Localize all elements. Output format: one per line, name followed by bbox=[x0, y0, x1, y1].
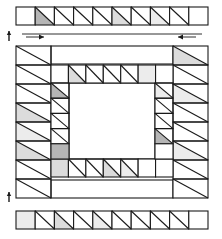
top-strip-unit-9-fill bbox=[189, 7, 208, 25]
inner-top-unit-1 bbox=[68, 65, 85, 83]
outer-right-unit-5 bbox=[173, 141, 208, 160]
outer-left-unit-2 bbox=[16, 84, 51, 103]
bottom-strip-unit-7 bbox=[150, 211, 169, 229]
inner-left-unit-4-fill bbox=[51, 144, 69, 159]
inner-bottom-unit-0-fill bbox=[51, 159, 68, 177]
inner-bottom-unit-5 bbox=[138, 159, 155, 177]
bottom-strip-unit-3 bbox=[74, 211, 93, 229]
inner-left-unit-0 bbox=[51, 83, 69, 98]
outer-left-unit-7 bbox=[16, 179, 51, 198]
outer-bottom-rail bbox=[51, 180, 173, 198]
outer-left-unit-4 bbox=[16, 122, 51, 141]
outer-top-rail bbox=[51, 46, 173, 64]
outer-right-unit-7 bbox=[173, 179, 208, 198]
top-strip-unit-0-fill bbox=[16, 7, 35, 25]
bottom-strip-unit-0 bbox=[16, 211, 35, 229]
quilt-diagram-svg bbox=[0, 0, 222, 239]
inner-top-unit-0 bbox=[51, 65, 68, 83]
inner-right-unit-3 bbox=[155, 129, 173, 144]
top-strip-unit-3 bbox=[74, 7, 93, 25]
inner-left-unit-1 bbox=[51, 98, 69, 113]
top-left-direction-arrow-head bbox=[39, 34, 44, 39]
bottom-strip-unit-5 bbox=[112, 211, 131, 229]
outer-left-unit-5 bbox=[16, 141, 51, 160]
inner-bottom-unit-4 bbox=[121, 159, 138, 177]
outer-left-unit-3 bbox=[16, 103, 51, 122]
top-strip-unit-2 bbox=[54, 7, 73, 25]
inner-top-unit-0-fill bbox=[51, 65, 68, 83]
inner-bottom-unit-3 bbox=[103, 159, 120, 177]
top-strip-unit-1 bbox=[35, 7, 54, 25]
top-strip-unit-0 bbox=[16, 7, 35, 25]
inner-top-unit-6 bbox=[156, 65, 173, 83]
inner-top-unit-6-fill bbox=[156, 65, 173, 83]
outer-right-unit-2 bbox=[173, 84, 208, 103]
inner-top-unit-5-fill bbox=[138, 65, 155, 83]
bottom-strip-unit-4 bbox=[93, 211, 112, 229]
left-tick-upper-head bbox=[7, 31, 11, 35]
bottom-strip-unit-0-fill bbox=[16, 211, 35, 229]
bottom-strip-unit-6 bbox=[131, 211, 150, 229]
bottom-strip-unit-9 bbox=[189, 211, 208, 229]
top-right-direction-arrow-head bbox=[178, 34, 183, 39]
top-strip-unit-6 bbox=[131, 7, 150, 25]
top-strip-unit-9 bbox=[189, 7, 208, 25]
bottom-strip-unit-2 bbox=[54, 211, 73, 229]
inner-bottom-unit-2 bbox=[86, 159, 103, 177]
outer-left-unit-1 bbox=[16, 65, 51, 84]
inner-top-unit-3 bbox=[103, 65, 120, 83]
center-open-square bbox=[69, 83, 155, 159]
outer-right-unit-6 bbox=[173, 160, 208, 179]
top-strip-unit-4 bbox=[93, 7, 112, 25]
inner-left-unit-4 bbox=[51, 144, 69, 159]
outer-right-unit-3 bbox=[173, 103, 208, 122]
outer-right-unit-4 bbox=[173, 122, 208, 141]
inner-top-unit-2 bbox=[86, 65, 103, 83]
inner-bottom-unit-0 bbox=[51, 159, 68, 177]
inner-right-unit-2 bbox=[155, 113, 173, 128]
inner-right-unit-4 bbox=[155, 144, 173, 159]
inner-bottom-unit-5-fill bbox=[138, 159, 155, 177]
bottom-strip-unit-1 bbox=[35, 211, 54, 229]
quilt-diagram-root bbox=[0, 0, 222, 239]
inner-bottom-unit-6 bbox=[156, 159, 173, 177]
outer-left-unit-6 bbox=[16, 160, 51, 179]
inner-right-unit-1 bbox=[155, 98, 173, 113]
bottom-strip-unit-9-fill bbox=[189, 211, 208, 229]
outer-right-unit-0 bbox=[173, 46, 208, 65]
top-strip-unit-7 bbox=[150, 7, 169, 25]
inner-right-unit-0 bbox=[155, 83, 173, 98]
top-strip-unit-8 bbox=[170, 7, 189, 25]
bottom-strip-unit-8 bbox=[170, 211, 189, 229]
left-tick-lower-head bbox=[7, 192, 11, 196]
inner-top-unit-5 bbox=[138, 65, 155, 83]
inner-bottom-unit-1 bbox=[68, 159, 85, 177]
outer-left-unit-0 bbox=[16, 46, 51, 65]
inner-right-unit-4-fill bbox=[155, 144, 173, 159]
inner-bottom-unit-6-fill bbox=[156, 159, 173, 177]
inner-left-unit-2 bbox=[51, 113, 69, 128]
inner-top-unit-4 bbox=[121, 65, 138, 83]
top-strip-unit-5 bbox=[112, 7, 131, 25]
outer-right-unit-1 bbox=[173, 65, 208, 84]
inner-left-unit-3 bbox=[51, 129, 69, 144]
